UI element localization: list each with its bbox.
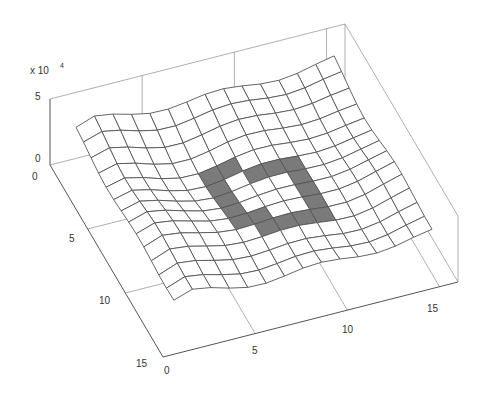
x-tick-5: 5 [252, 345, 258, 356]
x-tick-10: 10 [342, 324, 354, 335]
y-tick-10: 10 [99, 295, 111, 306]
y-tick-0: 0 [32, 171, 38, 182]
z-tick-0: 0 [35, 153, 41, 164]
x-tick-15: 15 [427, 303, 439, 314]
surface-plot: x 10 4 5 0 0 5 10 15 0 5 10 15 [0, 0, 484, 396]
y-tick-5: 5 [69, 233, 75, 244]
surface-mesh [76, 56, 432, 300]
z-multiplier-label: x 10 4 [30, 62, 64, 76]
z-multiplier-base: x 10 [30, 65, 49, 76]
z-tick-5: 5 [35, 91, 41, 102]
x-tick-0: 0 [164, 365, 170, 376]
y-tick-15: 15 [136, 358, 148, 369]
z-multiplier-exponent: 4 [60, 62, 64, 69]
